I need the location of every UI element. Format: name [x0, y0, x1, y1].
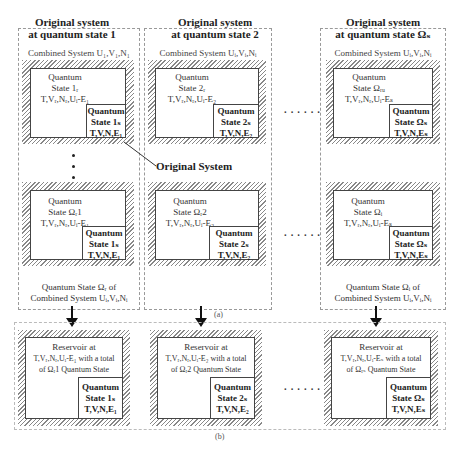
vertical-ellipsis-dot: [72, 176, 75, 179]
quantum-state-text: Quantum State Ωᵣᵤ T,Vᵣ,Nᵣ,Uᵢ-Eₛ: [333, 72, 405, 105]
part-a-label: (a): [214, 310, 223, 319]
system-quantum-state-box: Quantum State 1ₛ T,V,N,E₁: [78, 377, 123, 419]
system-quantum-state-box: Quantum State 2ₛ T,V,N,E₂: [210, 377, 255, 419]
column-title-line1: Original system: [7, 16, 137, 28]
reservoir-text: Reservoir at T,Vᵣ,Nᵣ,Uᵢ-E₂ with a total …: [157, 342, 255, 375]
quantum-state-text: Quantum State 1ᵣ T,Vᵣ,Nᵣ,Uᵢ-E₁: [30, 72, 100, 105]
reservoir-text: Reservoir at T,Vᵣ,Nᵣ,Uᵢ-Eₛ with a total …: [331, 342, 431, 375]
system-quantum-state-box: Quantum State 1ₛ T,V,N,E₁: [86, 104, 126, 138]
vertical-ellipsis-dot: [72, 154, 75, 157]
combined-system-label: Combined System U₁,V₁,N₁: [18, 48, 140, 58]
combined-quantum-state-caption: Quantum State Ωᵣ of Combined System Uᵢ,V…: [18, 282, 140, 304]
system-quantum-state-box: Quantum State Ωₛ T,V,N,Eₛ: [389, 104, 433, 138]
quantum-state-text: Quantum State Ωᵣ1 T,Vᵣ,Nᵣ,Uᵢ-E₁: [30, 196, 100, 229]
system-quantum-state-box: Quantum State 1ₛ T,V,N,E₁: [82, 226, 126, 260]
horizontal-ellipsis: ······: [283, 105, 323, 121]
system-quantum-state-box: Quantum State 2ₛ T,V,N,E₂: [213, 104, 259, 138]
combined-quantum-state-caption: Quantum State Ωᵢ of Combined System Uᵢ,V…: [320, 282, 446, 304]
horizontal-ellipsis: ······: [283, 382, 323, 398]
combined-system-label: Combined System Uᵢ,Vᵢ,Nᵢ: [144, 48, 272, 58]
part-b-label: (b): [215, 432, 224, 441]
combined-system-label: Combined System Uᵢ,Vᵢ,Nᵢ: [320, 48, 446, 58]
vertical-ellipsis-dot: [72, 165, 75, 168]
callout-leader-line: [120, 140, 160, 170]
system-quantum-state-box: Quantum State Ωₛ T,V,N,Eₛ: [386, 377, 431, 419]
horizontal-ellipsis: ······: [283, 228, 323, 244]
reservoir-text: Reservoir at T,Vᵣ,Nᵣ,Uᵢ-E₁ with a total …: [25, 342, 123, 375]
system-quantum-state-box: Quantum State Ωₛ T,V,N,Eₛ: [389, 226, 433, 260]
quantum-state-text: Quantum State Ωᵣ2 T,Vᵣ,Nᵣ,Uᵢ-E₂: [155, 196, 225, 229]
system-quantum-state-box: Quantum State 2ₛ T,V,N,E₂: [209, 226, 259, 260]
original-system-callout: Original System: [156, 160, 232, 172]
quantum-state-text: Quantum State Ωᵢ T,Vᵣ,Nᵣ,Uᵢ-Eₛ: [333, 196, 403, 229]
quantum-state-text: Quantum State 2ᵣ T,Vᵣ,Nᵣ,Uᵢ-E₂: [155, 72, 229, 105]
